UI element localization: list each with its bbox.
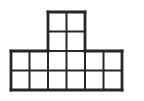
grid-cell	[48, 71, 67, 91]
square-grid-figure	[0, 0, 144, 101]
grid-cell	[30, 51, 49, 71]
grid-cell	[48, 51, 67, 71]
grid-cell	[67, 12, 86, 32]
grid-cell	[11, 51, 30, 71]
grid-cell	[30, 71, 49, 91]
grid-cell	[85, 71, 104, 91]
grid-cell	[11, 71, 30, 91]
grid-cell	[67, 51, 86, 71]
grid-cell	[48, 12, 67, 32]
grid-cell	[104, 71, 123, 91]
grid-cell	[67, 71, 86, 91]
grid-cell	[85, 51, 104, 71]
grid-cell	[67, 32, 86, 52]
figure-canvas	[0, 0, 144, 101]
grid-cell	[104, 51, 123, 71]
grid-cell	[48, 32, 67, 52]
